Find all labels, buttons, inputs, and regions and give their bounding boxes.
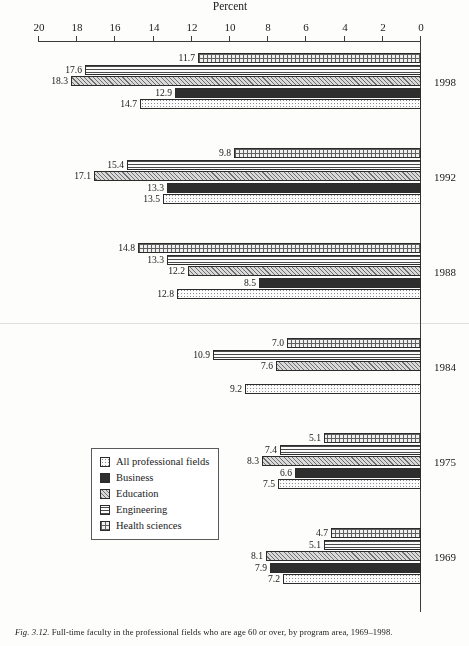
bar[interactable] [270,563,421,573]
bar-value-label: 12.9 [155,88,172,98]
bar[interactable] [198,54,421,64]
bar[interactable] [188,267,421,277]
bar-value-label: 8.5 [244,278,256,288]
bar-value-label: 17.6 [65,65,82,75]
bar-value-label: 7.6 [261,362,273,372]
bar[interactable] [167,183,421,193]
bar-value-label: 13.3 [147,183,164,193]
category-label-1992: 1992 [425,172,465,184]
figure-caption: Fig. 3.12. Full-time faculty in the prof… [15,627,455,638]
bar-value-label: 11.7 [178,54,194,64]
bar-value-label: 7.2 [268,575,280,585]
bar[interactable] [283,575,421,585]
legend-swatch-icon [100,505,110,515]
legend-item-label: Business [116,472,153,483]
bar[interactable] [295,468,421,478]
bar[interactable] [324,434,421,444]
legend-item[interactable]: Business [100,472,210,483]
bar[interactable] [331,529,421,539]
legend: All professional fieldsBusinessEducation… [91,448,219,540]
bar-value-label: 18.3 [52,77,69,87]
category-label-1984: 1984 [425,362,465,374]
axis-tick-label: 0 [404,21,438,33]
axis-tick-label: 12 [175,21,209,33]
bar-value-label: 14.7 [120,100,137,110]
bar-value-label: 14.8 [119,244,136,254]
category-label-1969: 1969 [425,552,465,564]
bar[interactable] [266,552,421,562]
bar[interactable] [245,385,421,395]
bar-value-label: 13.3 [147,255,164,265]
bar-value-label: 5.1 [309,434,321,444]
bar-value-label: 8.3 [247,457,259,467]
bar[interactable] [71,77,421,87]
bar-value-label: 7.0 [272,339,284,349]
bar[interactable] [276,362,421,372]
bar-group: 14.712.918.317.611.71998 [39,42,421,137]
category-label-1998: 1998 [425,77,465,89]
legend-item[interactable]: Health sciences [100,520,210,531]
legend-item[interactable]: Education [100,488,210,499]
legend-swatch-icon [100,473,110,483]
legend-swatch-icon [100,521,110,531]
bar-value-label: 17.1 [75,172,92,182]
bar-group: 12.88.512.213.314.81988 [39,232,421,327]
bar[interactable] [175,88,421,98]
bar[interactable] [262,457,421,467]
category-label-1988: 1988 [425,267,465,279]
bar[interactable] [280,445,421,455]
bar-value-label: 7.4 [265,445,277,455]
bar[interactable] [278,480,421,490]
axis-tick-label: 4 [328,21,362,33]
bar-value-label: 13.5 [143,195,160,205]
bar-group: 13.513.317.115.49.81992 [39,137,421,232]
bar-value-label: 12.2 [168,267,185,277]
figure-number: Fig. 3.12. [15,627,49,637]
bar[interactable] [259,278,421,288]
bar-value-label: 6.6 [280,468,292,478]
legend-swatch-icon [100,489,110,499]
bar-value-label: 12.8 [157,290,174,300]
bar[interactable] [94,172,421,182]
legend-item-label: Education [116,488,159,499]
legend-swatch-icon [100,457,110,467]
bar-value-label: 5.1 [309,540,321,550]
bar[interactable] [163,195,421,205]
bar[interactable] [287,339,421,349]
bar[interactable] [140,100,421,110]
axis-tick-label: 10 [213,21,247,33]
axis-tick-label: 8 [251,21,285,33]
legend-item-label: All professional fields [116,456,209,467]
scan-artifact [0,323,469,324]
bar-value-label: 9.8 [219,149,231,159]
legend-item[interactable]: All professional fields [100,456,210,467]
bar-value-label: 4.7 [316,529,328,539]
axis-tick-label: 18 [60,21,94,33]
category-label-1975: 1975 [425,457,465,469]
bar[interactable] [177,290,421,300]
bar[interactable] [167,255,421,265]
bar[interactable] [324,540,421,550]
bar[interactable] [213,350,421,360]
value-axis-title: Percent [39,0,421,12]
axis-tick-label: 2 [366,21,400,33]
axis-tick-label: 20 [22,21,56,33]
bar-value-label: 9.2 [230,385,242,395]
axis-tick-label: 6 [289,21,323,33]
legend-item-label: Health sciences [116,520,182,531]
figure-caption-text: Full-time faculty in the professional fi… [52,627,393,637]
axis-tick-label: 16 [98,21,132,33]
bar-value-label: 7.5 [263,480,275,490]
bar-value-label: 7.9 [255,563,267,573]
axis-tick-label: 14 [137,21,171,33]
legend-item-label: Engineering [116,504,167,515]
bar-group: 9.27.610.97.01984 [39,327,421,422]
bar-value-label: 8.1 [251,552,263,562]
bar-value-label: 15.4 [107,160,124,170]
bar[interactable] [234,149,421,159]
legend-item[interactable]: Engineering [100,504,210,515]
bar-value-label: 10.9 [193,350,210,360]
bar[interactable] [138,244,421,254]
bar[interactable] [85,65,421,75]
bar[interactable] [127,160,421,170]
